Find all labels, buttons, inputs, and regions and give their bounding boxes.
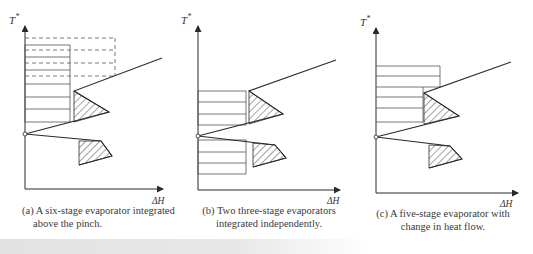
panel-a bbox=[23, 26, 163, 189]
caption-a-line2: above the pinch. bbox=[22, 217, 180, 230]
upper-pocket bbox=[249, 91, 283, 124]
lower-evaporator-stages bbox=[198, 140, 246, 174]
caption-b-line1: (b) Two three-stage evaporators bbox=[196, 204, 342, 217]
lower-pocket bbox=[429, 145, 462, 168]
lower-pocket bbox=[253, 143, 286, 167]
caption-a-line1: (a) A six-stage evaporator integrated bbox=[22, 204, 180, 217]
lower-pocket bbox=[79, 141, 112, 165]
caption-b-line2: integrated independently. bbox=[196, 217, 342, 230]
y-axis-label-a: T* bbox=[9, 12, 19, 26]
y-axis-label-b: T* bbox=[181, 12, 191, 26]
y-axis-label-c: T* bbox=[360, 14, 370, 28]
evaporator-stages bbox=[25, 45, 70, 122]
caption-c-line1: (c) A five-stage evaporator with bbox=[368, 207, 518, 220]
pinch-point bbox=[23, 132, 27, 136]
upper-evaporator-stages bbox=[198, 91, 246, 125]
pinch-point bbox=[374, 135, 378, 139]
upper-pocket bbox=[424, 93, 459, 124]
caption-b: (b) Two three-stage evaporators integrat… bbox=[196, 204, 342, 230]
pinch-point bbox=[196, 134, 200, 138]
panel-c bbox=[374, 28, 518, 193]
upper-pocket bbox=[74, 91, 109, 122]
caption-c-line2: change in heat flow. bbox=[368, 220, 518, 233]
caption-a: (a) A six-stage evaporator integrated ab… bbox=[22, 204, 180, 230]
caption-c: (c) A five-stage evaporator with change … bbox=[368, 207, 518, 233]
panel-b bbox=[196, 26, 340, 190]
